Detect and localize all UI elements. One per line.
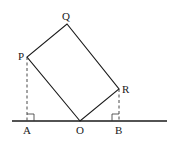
label-a: A [23,124,31,136]
label-b: B [115,124,122,136]
label-p: P [18,50,24,62]
geometry-diagram: Q P R A O B [0,0,176,141]
label-o: O [76,124,84,136]
label-q: Q [62,10,70,22]
label-r: R [122,83,130,95]
right-angle-marker-b [112,114,119,121]
rectangle-opqr [27,24,119,121]
right-angle-marker-a [27,114,34,121]
